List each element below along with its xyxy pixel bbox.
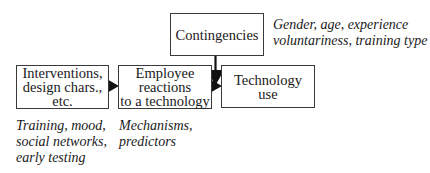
interventions-label: Interventions, design chars., etc. xyxy=(22,66,102,108)
contingencies-box: Contingencies xyxy=(170,13,264,56)
technology-use-label: Technology use xyxy=(234,73,302,101)
interventions-note: Training, mood, social networks, early t… xyxy=(16,118,107,166)
employee-reactions-box: Employee reactions to a technology xyxy=(118,65,212,109)
contingencies-note: Gender, age, experience voluntariness, t… xyxy=(273,17,427,49)
employee-reactions-note: Mechanisms, predictors xyxy=(119,118,193,150)
contingencies-label: Contingencies xyxy=(176,28,259,42)
interventions-box: Interventions, design chars., etc. xyxy=(16,65,109,109)
technology-use-box: Technology use xyxy=(221,65,315,108)
employee-reactions-label: Employee reactions to a technology xyxy=(120,66,209,108)
